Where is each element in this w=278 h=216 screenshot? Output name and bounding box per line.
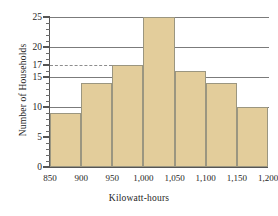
y-axis-minor-tick — [46, 101, 51, 102]
histogram-bar — [81, 83, 112, 167]
y-axis-minor-tick — [46, 35, 51, 36]
y-axis-minor-tick — [46, 83, 51, 84]
y-axis-minor-tick — [46, 29, 51, 30]
x-axis-tick-label-text: 850 — [43, 173, 57, 183]
y-axis-major-tick — [43, 76, 50, 77]
y-axis-tick-label: 10 — [8, 102, 42, 112]
y-axis-major-tick — [43, 16, 50, 17]
y-axis-tick-label: 15 — [8, 72, 42, 82]
x-axis-tick-label: 1,000 — [126, 173, 160, 183]
histogram-bar — [206, 83, 237, 167]
plot-area — [50, 17, 268, 167]
y-axis-minor-tick — [46, 89, 51, 90]
x-axis-tick-label-text: 1,150 — [227, 173, 247, 183]
x-axis-tick-label-text: 1,200 — [258, 173, 278, 183]
x-axis-tick-label: 1,100 — [189, 173, 223, 183]
x-axis-tick-label: 1,200 — [251, 173, 278, 183]
histogram-bar — [112, 65, 143, 167]
y-axis-tick-labels: 051015172025 — [8, 17, 42, 167]
y-axis-tick-label: 17 — [8, 60, 42, 70]
x-axis-tick-label: 1,050 — [158, 173, 192, 183]
y-axis-minor-tick — [46, 23, 51, 24]
histogram-bar — [175, 71, 206, 167]
y-axis-major-tick — [43, 64, 50, 65]
histogram-bar — [237, 107, 268, 167]
y-axis-minor-tick — [46, 95, 51, 96]
y-axis-tick-label: 5 — [8, 132, 42, 142]
x-axis-tick-label-text: 900 — [74, 173, 88, 183]
histogram-figure: Number of Households 051015172025 850900… — [0, 0, 278, 216]
y-axis-major-tick — [43, 166, 50, 167]
histogram-bar — [50, 113, 81, 167]
x-axis-tick-label-text: 1,100 — [196, 173, 216, 183]
y-axis-tick-label: 25 — [8, 12, 42, 22]
y-axis-tick-label: 20 — [8, 42, 42, 52]
x-axis-tick-label: 950 — [95, 173, 129, 183]
x-axis-tick-label: 900 — [64, 173, 98, 183]
y-axis-major-tick — [43, 106, 50, 107]
y-axis-major-tick — [43, 46, 50, 47]
x-axis-tick-label-text: 950 — [106, 173, 120, 183]
x-axis-line — [49, 167, 268, 168]
x-axis-tick-label: 850 — [33, 173, 67, 183]
x-axis-tick-label-text: 1,050 — [164, 173, 184, 183]
y-axis-minor-tick — [46, 41, 51, 42]
y-axis-minor-tick — [46, 71, 51, 72]
y-axis-minor-tick — [46, 53, 51, 54]
y-axis-minor-tick — [46, 59, 51, 60]
y-axis-major-tick — [43, 136, 50, 137]
x-axis-title: Kilowatt-hours — [0, 193, 278, 203]
y-axis-tick-label: 0 — [8, 162, 42, 172]
histogram-bar — [143, 17, 174, 167]
x-axis-tick-label-text: 1,000 — [133, 173, 153, 183]
x-axis-tick-label: 1,150 — [220, 173, 254, 183]
reference-line — [50, 65, 112, 66]
